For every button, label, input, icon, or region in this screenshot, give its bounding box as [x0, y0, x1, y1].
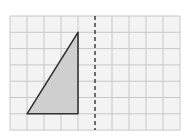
grid-diagram	[0, 0, 187, 139]
